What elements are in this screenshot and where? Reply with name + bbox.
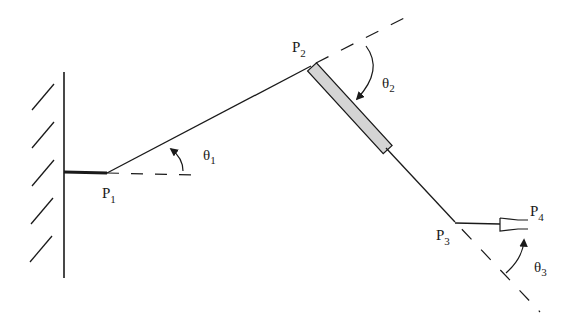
- theta1-arc-icon: [171, 149, 183, 171]
- label-p4: P4: [530, 203, 544, 223]
- label-theta2: θ2: [382, 75, 395, 94]
- label-theta1: θ1: [203, 147, 216, 166]
- theta2-arc-icon: [357, 46, 373, 99]
- wall: [30, 72, 64, 278]
- link-3: [455, 223, 500, 224]
- prismatic-joint: [308, 63, 393, 154]
- end-effector: [500, 218, 528, 231]
- theta3-arc-icon: [506, 240, 524, 273]
- label-p1: P1: [102, 185, 116, 205]
- label-p2: P2: [292, 39, 306, 59]
- wall-hatching: [30, 84, 54, 262]
- label-p3: P3: [436, 227, 450, 247]
- label-theta3: θ3: [534, 259, 547, 278]
- manipulator-diagram: P1 P2 P3 P4 θ1 θ2 θ3: [0, 0, 580, 325]
- reference-line-p1: [107, 173, 196, 175]
- link-2: [386, 148, 455, 222]
- reference-line-p2: [316, 14, 412, 63]
- base-link: [64, 172, 107, 173]
- reference-line-p3: [455, 222, 540, 312]
